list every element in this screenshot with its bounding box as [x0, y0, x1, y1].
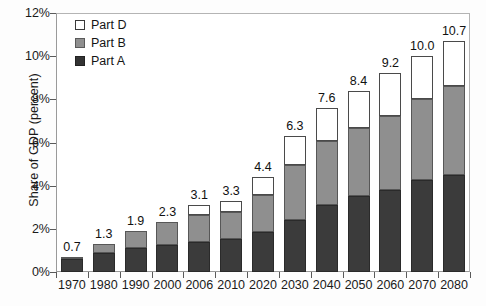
gray-square-icon	[75, 38, 85, 48]
y-tick-label: 10%	[0, 49, 50, 63]
bar-segment-part-a[interactable]	[61, 259, 83, 272]
stacked-bar-chart: Share of GDP (percent) 0%2%4%6%8%10%12% …	[0, 0, 486, 306]
x-tick-mark	[56, 272, 57, 278]
bar-segment-part-a[interactable]	[379, 190, 401, 272]
bar-segment-part-d[interactable]	[284, 136, 306, 165]
bar-group[interactable]	[156, 13, 178, 272]
x-tick-mark	[215, 272, 216, 278]
bar-segment-part-a[interactable]	[220, 239, 242, 272]
bar-segment-part-b[interactable]	[443, 86, 465, 174]
bar-segment-part-a[interactable]	[443, 175, 465, 272]
x-tick-label: 2050	[345, 278, 373, 292]
legend-item-label: Part A	[91, 54, 125, 68]
bar-segment-part-a[interactable]	[188, 242, 210, 272]
bar-group[interactable]	[284, 13, 306, 272]
bar-value-label: 9.2	[382, 56, 399, 70]
bar-segment-part-d[interactable]	[252, 177, 274, 195]
bar-segment-part-d[interactable]	[316, 108, 338, 141]
bar-segment-part-b[interactable]	[93, 244, 115, 253]
bar-value-label: 8.4	[350, 74, 367, 88]
x-tick-label: 1990	[122, 278, 150, 292]
legend-item-label: Part B	[91, 36, 126, 50]
x-tick-mark	[470, 272, 471, 278]
bar-segment-part-d[interactable]	[348, 91, 370, 129]
bar-value-label: 3.1	[191, 188, 208, 202]
x-tick-label: 2060	[376, 278, 404, 292]
y-tick-label: 12%	[0, 6, 50, 20]
y-tick-label: 8%	[0, 92, 50, 106]
x-tick-label: 2020	[249, 278, 277, 292]
x-tick-label: 2000	[154, 278, 182, 292]
bar-value-label: 2.3	[159, 205, 176, 219]
legend-item[interactable]: Part D	[75, 16, 126, 33]
x-tick-label: 2006	[185, 278, 213, 292]
bar-segment-part-b[interactable]	[411, 99, 433, 180]
x-tick-label: 2080	[440, 278, 468, 292]
legend: Part DPart BPart A	[75, 16, 126, 70]
y-tick-label: 2%	[0, 222, 50, 236]
legend-item-label: Part D	[91, 18, 126, 32]
bar-group[interactable]	[443, 13, 465, 272]
bar-segment-part-d[interactable]	[443, 41, 465, 86]
bar-segment-part-a[interactable]	[252, 232, 274, 272]
bar-segment-part-b[interactable]	[284, 165, 306, 220]
bar-group[interactable]	[125, 13, 147, 272]
bar-value-label: 10.7	[442, 24, 466, 38]
bar-segment-part-a[interactable]	[411, 180, 433, 272]
bar-segment-part-d[interactable]	[188, 205, 210, 215]
bar-group[interactable]	[348, 13, 370, 272]
bar-segment-part-b[interactable]	[348, 128, 370, 196]
y-tick-label: 0%	[0, 265, 50, 279]
y-tick-label: 4%	[0, 179, 50, 193]
bar-group[interactable]	[252, 13, 274, 272]
x-tick-label: 1970	[58, 278, 86, 292]
bar-segment-part-b[interactable]	[379, 116, 401, 190]
x-tick-label: 2040	[313, 278, 341, 292]
x-tick-mark	[88, 272, 89, 278]
x-tick-mark	[247, 272, 248, 278]
bar-segment-part-d[interactable]	[411, 56, 433, 99]
bar-segment-part-a[interactable]	[284, 220, 306, 272]
bar-segment-part-a[interactable]	[156, 245, 178, 272]
bar-value-label: 0.7	[63, 240, 80, 254]
x-tick-label: 2010	[217, 278, 245, 292]
x-tick-label: 2070	[408, 278, 436, 292]
bar-segment-part-d[interactable]	[220, 201, 242, 212]
x-tick-mark	[438, 272, 439, 278]
bar-group[interactable]	[316, 13, 338, 272]
dark-square-icon	[75, 56, 85, 66]
legend-item[interactable]: Part A	[75, 52, 126, 69]
y-tick-label: 6%	[0, 136, 50, 150]
x-tick-label: 2030	[281, 278, 309, 292]
x-tick-mark	[374, 272, 375, 278]
bar-segment-part-a[interactable]	[316, 205, 338, 272]
bar-segment-part-b[interactable]	[252, 195, 274, 232]
x-tick-mark	[279, 272, 280, 278]
white-square-icon	[75, 20, 85, 30]
bar-value-label: 7.6	[318, 91, 335, 105]
bar-segment-part-d[interactable]	[379, 73, 401, 115]
x-tick-mark	[183, 272, 184, 278]
bar-value-label: 3.3	[222, 184, 239, 198]
bar-segment-part-b[interactable]	[61, 257, 83, 259]
x-tick-mark	[406, 272, 407, 278]
bar-segment-part-a[interactable]	[348, 196, 370, 272]
bar-value-label: 1.9	[127, 214, 144, 228]
bar-group[interactable]	[379, 13, 401, 272]
bar-segment-part-b[interactable]	[188, 215, 210, 242]
bar-segment-part-b[interactable]	[156, 222, 178, 245]
bar-group[interactable]	[220, 13, 242, 272]
bar-segment-part-b[interactable]	[220, 212, 242, 239]
bar-segment-part-b[interactable]	[316, 141, 338, 205]
bar-group[interactable]	[188, 13, 210, 272]
legend-item[interactable]: Part B	[75, 34, 126, 51]
x-tick-label: 1980	[90, 278, 118, 292]
bar-segment-part-b[interactable]	[125, 231, 147, 248]
bar-value-label: 1.3	[95, 227, 112, 241]
bar-value-label: 6.3	[286, 119, 303, 133]
bar-value-label: 4.4	[254, 160, 271, 174]
bar-segment-part-a[interactable]	[93, 253, 115, 272]
bar-segment-part-a[interactable]	[125, 248, 147, 272]
bar-value-label: 10.0	[410, 39, 434, 53]
